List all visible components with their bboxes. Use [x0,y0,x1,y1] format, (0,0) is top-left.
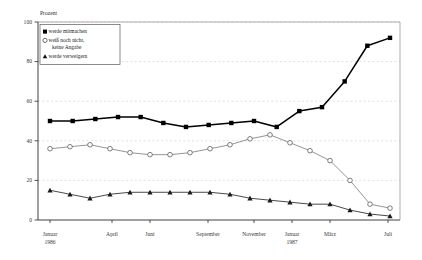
data-point-square [93,117,97,121]
data-point-circle [308,148,313,153]
data-point-square [161,121,165,125]
y-tick-label-40: 40 [26,138,32,144]
data-point-square [116,115,120,119]
x-tick-label-januar-1987: Januar [285,231,300,237]
x-tick-label-januar-1986: Januar [43,231,58,237]
data-point-square [320,105,324,109]
legend-marker-filled-square [43,30,47,34]
data-point-circle [148,152,153,157]
y-tick-label-60: 60 [26,98,32,104]
data-point-circle [328,158,333,163]
data-point-square [206,123,210,127]
x-tick-label-januar-1987-year: 1987 [286,239,297,245]
data-point-circle [128,150,133,155]
y-axis-title: Prozent [40,10,58,16]
y-tick-label-100: 100 [24,19,33,25]
legend-label-werde-verweigern: werde verweigern [49,53,88,59]
data-point-circle [348,178,353,183]
data-point-square [252,119,256,123]
chart-container: Prozent 0 20 40 60 80 100 Januar 1986 Ap… [0,0,422,260]
x-tick-label-juni: Juni [145,231,155,237]
data-point-circle [168,152,173,157]
data-point-circle [108,146,113,151]
legend-marker-open-circle [43,38,47,42]
data-point-circle [368,202,373,207]
data-point-circle [68,144,73,149]
data-point-circle [208,146,213,151]
line-chart: Prozent 0 20 40 60 80 100 Januar 1986 Ap… [0,0,422,260]
data-point-square [70,119,74,123]
x-tick-label-maerz: März [324,231,336,237]
data-point-square [229,121,233,125]
x-tick-label-april: April [106,231,118,237]
data-point-square [342,79,346,83]
data-point-circle [388,206,393,211]
y-tick-label-80: 80 [26,58,32,64]
data-point-square [138,115,142,119]
data-point-circle [48,146,53,151]
x-tick-label-september: September [196,231,220,237]
legend-label-weiss-noch-nicht: weiß noch nicht, [49,37,85,43]
data-point-circle [288,140,293,145]
data-point-circle [188,150,193,155]
y-tick-label-20: 20 [26,177,32,183]
data-point-square [48,119,52,123]
data-point-square [274,125,278,129]
data-point-square [184,125,188,129]
x-tick-label-juli: Juli [384,231,393,237]
legend-label-keine-angabe: keine Angabe [52,44,82,50]
y-tick-label-0: 0 [29,217,32,223]
data-point-circle [88,142,93,147]
x-tick-label-januar-1986-year: 1986 [44,239,55,245]
legend: werde mitmachen weiß noch nicht, keine A… [40,25,120,65]
legend-label-werde-mitmachen: werde mitmachen [49,28,88,34]
data-point-circle [248,137,253,142]
data-point-square [365,44,369,48]
data-point-square [388,36,392,40]
data-point-square [297,109,301,113]
x-tick-label-november: November [242,231,266,237]
data-point-circle [268,133,273,138]
data-point-circle [228,142,233,147]
